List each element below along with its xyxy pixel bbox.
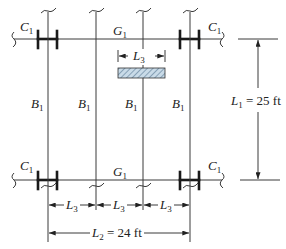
- label-beam-4: B1: [172, 97, 184, 113]
- hatched-load-area: [118, 68, 165, 78]
- label-l3-bottom-1: L3: [64, 198, 80, 214]
- label-girder-bottom: G1: [113, 165, 127, 181]
- framing-lines: [0, 0, 286, 249]
- label-column-top-left: C1: [20, 20, 33, 36]
- label-l1: L1 = 25 ft: [229, 94, 283, 110]
- label-l3-top: L3: [131, 49, 147, 65]
- label-column-top-right: C1: [208, 20, 221, 36]
- label-l3-bottom-3: L3: [158, 198, 174, 214]
- label-l2: L2 = 24 ft: [90, 226, 144, 242]
- label-beam-2: B1: [78, 97, 90, 113]
- label-beam-1: B1: [31, 97, 43, 113]
- label-column-bottom-left: C1: [20, 159, 33, 175]
- label-beam-3: B1: [125, 97, 137, 113]
- label-l3-bottom-2: L3: [111, 198, 127, 214]
- label-girder-top: G1: [113, 24, 127, 40]
- label-column-bottom-right: C1: [208, 159, 221, 175]
- framing-plan-diagram: C1 C1 C1 C1 G1 G1 B1 B1 B1 B1 L3 L1 = 25…: [0, 0, 286, 249]
